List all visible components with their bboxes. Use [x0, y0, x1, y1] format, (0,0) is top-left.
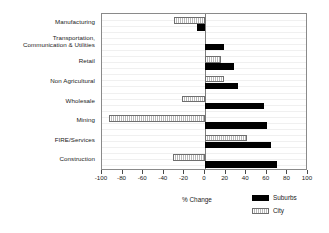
- plot-area: [101, 13, 307, 170]
- gridline: [102, 68, 306, 69]
- category-axis-labels: ManufacturingTransportation, Communicati…: [0, 13, 99, 170]
- legend-swatch-city: [252, 208, 269, 214]
- legend-item-suburbs: Suburbs: [252, 193, 322, 203]
- x-tick: [101, 170, 102, 174]
- category-label: Mining: [76, 116, 95, 123]
- x-axis-title: % Change: [182, 196, 212, 204]
- x-tick-label: -100: [95, 174, 107, 182]
- x-tick-label: 100: [302, 174, 312, 182]
- chart-legend: Suburbs City: [252, 193, 322, 219]
- x-tick: [266, 170, 267, 174]
- category-label: Non Agricultural: [50, 77, 95, 84]
- bar-suburbs: [205, 83, 238, 90]
- x-tick-label: 40: [242, 174, 249, 182]
- legend-label-city: City: [273, 207, 284, 215]
- bar-city: [174, 17, 205, 24]
- gridline: [102, 123, 306, 124]
- gridline: [102, 86, 306, 87]
- x-axis-tick-labels: -100-80-60-40-20020406080100: [101, 174, 307, 184]
- category-label: Manufacturing: [55, 18, 95, 25]
- gridline: [102, 56, 306, 57]
- x-tick-label: 60: [262, 174, 269, 182]
- gridline: [102, 141, 306, 142]
- x-tick: [163, 170, 164, 174]
- bar-suburbs: [205, 161, 277, 168]
- x-tick: [204, 170, 205, 174]
- category-label: Transportation, Communication & Utilitie…: [23, 34, 95, 49]
- gridline: [102, 80, 306, 81]
- x-tick-label: 20: [221, 174, 228, 182]
- x-tick-label: -40: [158, 174, 167, 182]
- gridline: [102, 44, 306, 45]
- category-label: Retail: [79, 57, 95, 64]
- bar-suburbs: [205, 63, 234, 70]
- x-tick-label: 80: [283, 174, 290, 182]
- legend-label-suburbs: Suburbs: [273, 194, 297, 202]
- x-tick: [225, 170, 226, 174]
- gridline: [102, 129, 306, 130]
- gridline: [102, 50, 306, 51]
- gridline: [102, 32, 306, 33]
- x-tick: [286, 170, 287, 174]
- gridlines: [102, 14, 306, 169]
- bar-suburbs: [205, 142, 271, 149]
- bar-city: [109, 115, 205, 122]
- category-label: Construction: [60, 155, 95, 162]
- horizontal-bar-chart: ManufacturingTransportation, Communicati…: [0, 0, 329, 233]
- gridline: [102, 38, 306, 39]
- x-tick: [245, 170, 246, 174]
- bar-city: [205, 76, 224, 83]
- x-tick: [142, 170, 143, 174]
- gridline: [102, 147, 306, 148]
- x-tick-label: -80: [117, 174, 126, 182]
- bar-suburbs: [205, 44, 224, 51]
- legend-item-city: City: [252, 206, 322, 216]
- gridline: [102, 62, 306, 63]
- bar-suburbs: [205, 122, 267, 129]
- bar-suburbs: [197, 24, 205, 31]
- bar-city: [205, 135, 247, 142]
- x-tick-label: -20: [179, 174, 188, 182]
- gridline: [102, 135, 306, 136]
- legend-swatch-suburbs: [252, 195, 269, 201]
- gridline: [102, 93, 306, 94]
- bar-suburbs: [205, 103, 264, 110]
- bar-city: [205, 56, 221, 63]
- x-tick: [183, 170, 184, 174]
- gridline: [102, 111, 306, 112]
- category-label: Wholesale: [66, 97, 95, 104]
- x-tick: [307, 170, 308, 174]
- x-tick-label: -60: [138, 174, 147, 182]
- gridline: [102, 74, 306, 75]
- category-label: FIRE/Services: [55, 136, 95, 143]
- bar-city: [182, 96, 205, 103]
- bar-city: [173, 154, 205, 161]
- x-tick-label: 0: [202, 174, 205, 182]
- gridline: [102, 105, 306, 106]
- x-tick: [122, 170, 123, 174]
